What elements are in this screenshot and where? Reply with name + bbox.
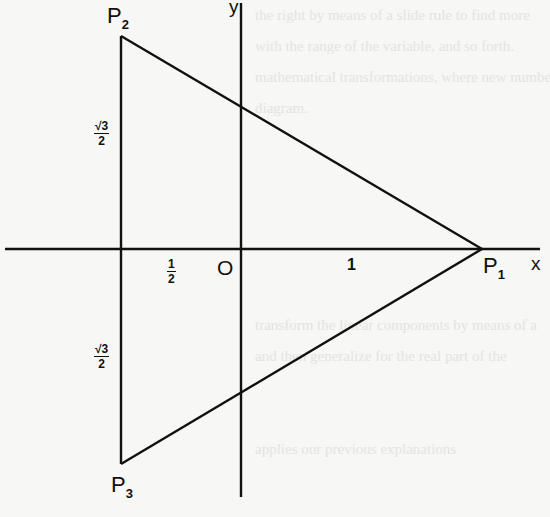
side-p2-p1 bbox=[121, 36, 482, 249]
fraction-numerator: √3 bbox=[94, 343, 109, 357]
fraction-denominator: 2 bbox=[98, 357, 105, 370]
label-one-half: 1 2 bbox=[167, 258, 176, 285]
label-sqrt3-over-2-upper: √3 2 bbox=[94, 120, 109, 147]
fraction-denominator: 2 bbox=[168, 272, 175, 285]
point-letter: P bbox=[483, 253, 498, 278]
point-letter: P bbox=[107, 3, 122, 28]
point-subscript: 1 bbox=[498, 267, 505, 282]
label-sqrt3-over-2-lower: √3 2 bbox=[94, 343, 109, 370]
x-axis-label: x bbox=[531, 254, 541, 273]
point-label-p3: P3 bbox=[111, 474, 133, 500]
y-axis-label: y bbox=[229, 0, 239, 16]
fraction-numerator: 1 bbox=[167, 258, 176, 272]
fraction-denominator: 2 bbox=[98, 134, 105, 147]
triangle-diagram bbox=[0, 0, 550, 517]
point-label-p2: P2 bbox=[107, 5, 129, 31]
label-one: 1 bbox=[347, 257, 356, 273]
fraction-numerator: √3 bbox=[94, 120, 109, 134]
point-label-p1: P1 bbox=[483, 255, 505, 281]
point-subscript: 2 bbox=[122, 17, 129, 32]
point-subscript: 3 bbox=[126, 486, 133, 501]
point-letter: P bbox=[111, 472, 126, 497]
origin-label: O bbox=[217, 257, 233, 278]
